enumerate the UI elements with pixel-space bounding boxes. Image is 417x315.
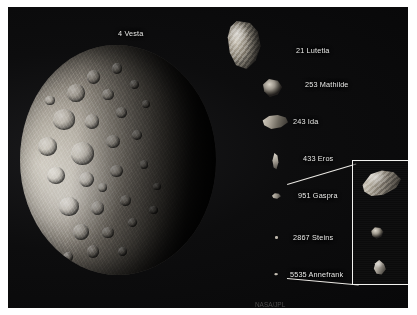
- asteroid-ida-icon: [261, 115, 288, 129]
- asteroid-vesta-icon: [20, 45, 216, 275]
- image-credit: NASA/JPL: [255, 299, 367, 308]
- label-253-mathilde: 253 Mathilde: [305, 80, 349, 89]
- asteroid-gaspra-icon: [271, 193, 281, 199]
- asteroid-mathilde-icon: [263, 79, 283, 97]
- label-243-ida: 243 Ida: [293, 117, 318, 126]
- asteroid-annefrank-magnified-icon: [373, 260, 387, 275]
- label-2867-steins: 2867 Steins: [293, 233, 333, 242]
- inset-leader-line-top: [287, 164, 356, 185]
- gaspra-magnified-texture: [361, 170, 401, 197]
- asteroid-steins-icon: [275, 236, 278, 239]
- asteroid-eros-icon: [272, 153, 279, 170]
- lutetia-surface-texture: [227, 21, 262, 69]
- inset-leader-line-bottom: [287, 278, 359, 286]
- asteroid-gaspra-magnified-icon: [361, 170, 401, 197]
- vesta-craters-layer: [20, 45, 216, 275]
- asteroid-annefrank-icon: [274, 273, 278, 276]
- label-433-eros: 433 Eros: [303, 154, 333, 163]
- asteroid-size-comparison-figure: 4 Vesta 21 Lutetia 253 Mathilde 243 Ida …: [8, 7, 408, 308]
- label-951-gaspra: 951 Gaspra: [298, 191, 338, 200]
- asteroid-lutetia-icon: [227, 21, 262, 69]
- asteroid-steins-magnified-icon: [371, 227, 384, 239]
- label-5535-annefrank: 5535 Annefrank: [290, 270, 343, 279]
- magnified-inset: [352, 160, 408, 285]
- label-21-lutetia: 21 Lutetia: [296, 46, 330, 55]
- label-4-vesta: 4 Vesta: [118, 29, 143, 38]
